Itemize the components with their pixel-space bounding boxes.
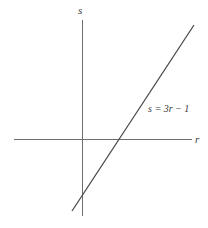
s-axis-label: s (78, 5, 82, 16)
equation-label: s = 3r − 1 (148, 104, 189, 114)
line-s-equals-3r-minus-1 (72, 25, 194, 211)
coordinate-plane-svg (0, 0, 208, 228)
r-axis-label: r (195, 134, 199, 145)
coordinate-plane-figure: s r s = 3r − 1 (0, 0, 208, 228)
